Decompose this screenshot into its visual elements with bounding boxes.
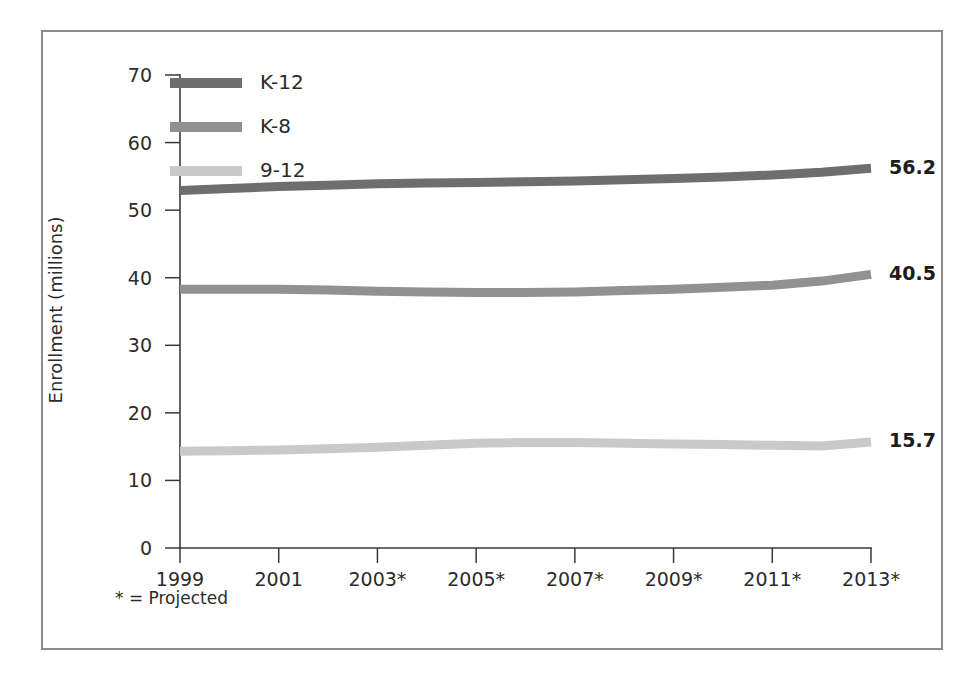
- chart-legend: K-12K-89-12: [170, 70, 305, 182]
- y-tick-label: 70: [128, 64, 152, 86]
- x-tick-label: 1999: [156, 568, 204, 590]
- y-axis-title: Enrollment (millions): [45, 217, 66, 404]
- series-line-9-12: [180, 442, 871, 451]
- y-tick-label: 20: [128, 402, 152, 424]
- legend-label-k-12: K-12: [260, 70, 304, 94]
- x-tick-label: 2007*: [546, 568, 604, 590]
- legend-swatch-k-12: [170, 78, 242, 88]
- y-tick-label: 60: [128, 132, 152, 154]
- x-tick-label: 2001: [255, 568, 303, 590]
- value-label-k-8: 40.5: [889, 262, 936, 284]
- x-tick-label: 2011*: [743, 568, 801, 590]
- projected-footnote: * = Projected: [115, 588, 228, 608]
- y-tick-label: 0: [140, 537, 152, 559]
- legend-label-k-8: K-8: [260, 114, 291, 138]
- x-tick-label: 2013*: [842, 568, 900, 590]
- x-axis-ticks: 199920012003*2005*2007*2009*2011*2013*: [156, 548, 900, 590]
- series-lines: [180, 168, 871, 451]
- enrollment-line-chart: Enrollment (millions) 010203040506070 19…: [0, 0, 976, 678]
- x-tick-label: 2003*: [348, 568, 406, 590]
- y-tick-label: 40: [128, 267, 152, 289]
- x-tick-label: 2005*: [447, 568, 505, 590]
- y-tick-label: 10: [128, 469, 152, 491]
- y-tick-label: 50: [128, 199, 152, 221]
- legend-swatch-9-12: [170, 166, 242, 176]
- value-label-9-12: 15.7: [889, 429, 936, 451]
- series-value-labels: 56.240.515.7: [889, 156, 936, 452]
- y-tick-label: 30: [128, 334, 152, 356]
- series-line-k-8: [180, 274, 871, 292]
- legend-label-9-12: 9-12: [260, 158, 305, 182]
- legend-swatch-k-8: [170, 122, 242, 132]
- chart-figure: Enrollment (millions) 010203040506070 19…: [0, 0, 976, 678]
- value-label-k-12: 56.2: [889, 156, 936, 178]
- x-tick-label: 2009*: [645, 568, 703, 590]
- y-axis-ticks: 010203040506070: [128, 64, 180, 559]
